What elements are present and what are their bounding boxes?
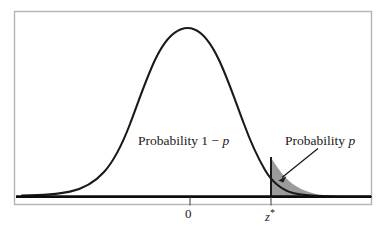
probability-tail-label: Probability p	[285, 134, 355, 148]
probability-tail-label-prefix: Probability	[285, 133, 348, 148]
figure-canvas	[0, 0, 382, 234]
x-axis-tick-label-zstar: z*	[265, 208, 275, 224]
probability-tail-label-variable: p	[348, 133, 355, 148]
figure-frame	[15, 12, 372, 205]
x-axis-tick-label-zero: 0	[185, 207, 192, 220]
x-axis-tick-label-zstar-superscript: *	[270, 207, 275, 218]
probability-body-label-prefix: Probability 1 −	[138, 133, 223, 148]
probability-body-label: Probability 1 − p	[138, 134, 229, 148]
normal-distribution-figure: Probability 1 − p Probability p 0 z*	[0, 0, 382, 234]
probability-body-label-variable: p	[223, 133, 230, 148]
